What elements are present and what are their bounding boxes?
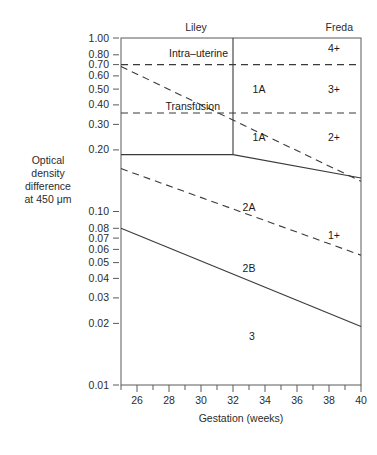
y-tick-label: 0.70 [89,58,110,70]
x-tick-label: 40 [355,394,367,406]
y-tick-label: 0.10 [89,205,110,217]
annotation-intra-uterine: Intra–uterine [169,47,228,59]
zone-label-liley-2a: 2A [243,201,256,213]
y-tick-label: 0.20 [89,143,110,155]
y-tick-label: 0.60 [89,69,110,81]
y-tick-label: 0.30 [89,118,110,130]
y-tick-label: 0.05 [89,256,110,268]
x-tick-labels: 26 28 30 32 34 36 38 40 [131,394,367,406]
y-axis-title-line: Optical [32,154,65,166]
y-axis-title: Optical density difference at 450 μm [25,154,72,205]
annotation-transfusion: Transfusion [166,100,221,112]
series-zone2B-3-boundary [121,228,361,326]
y-tick-label: 0.07 [89,232,110,244]
y-axis-title-line: difference [25,180,71,192]
liley-curve-chart: Liley Freda 1.00 0.80 0.70 0.60 0.50 0.4… [0,0,377,455]
y-tick-labels: 1.00 0.80 0.70 0.60 0.50 0.40 0.30 0.20 … [89,32,110,391]
column-header-freda: Freda [326,21,354,33]
y-axis-title-line: at 450 μm [25,193,72,205]
x-tick-label: 34 [259,394,271,406]
x-tick-label: 32 [227,394,239,406]
y-tick-label: 0.40 [89,98,110,110]
y-tick-label: 0.02 [89,317,110,329]
zone-label-freda-4plus: 4+ [328,42,340,54]
series-liley-zone1-lower-boundary [121,155,361,178]
x-tick-marks [121,385,361,392]
x-tick-label: 26 [131,394,143,406]
x-axis-title: Gestation (weeks) [199,412,284,424]
y-tick-label: 0.04 [89,272,110,284]
y-tick-label: 0.50 [89,83,110,95]
zone-label-liley-1a-lower: 1A [253,131,266,143]
x-tick-label: 38 [323,394,335,406]
y-tick-label: 0.06 [89,243,110,255]
y-tick-label: 1.00 [89,32,110,44]
chart-svg: Liley Freda 1.00 0.80 0.70 0.60 0.50 0.4… [0,0,377,455]
x-tick-label: 28 [163,394,175,406]
y-tick-label: 0.01 [89,379,110,391]
y-axis-title-line: density [31,167,65,179]
x-tick-label: 30 [195,394,207,406]
zone-label-freda-1plus: 1+ [328,229,340,241]
zone-label-liley-2b: 2B [243,262,256,274]
y-tick-label: 0.03 [89,291,110,303]
zone-label-freda-2plus: 2+ [328,131,340,143]
y-tick-marks [113,38,119,385]
zone-label-freda-3plus: 3+ [328,83,340,95]
series-zone2A-2B-boundary [121,169,361,256]
zone-label-liley-3: 3 [249,330,255,342]
zone-label-liley-1a-upper: 1A [253,83,266,95]
plot-frame [121,38,361,385]
series-intra-uterine-transfusion-boundary [121,67,361,182]
x-tick-label: 36 [291,394,303,406]
column-header-liley: Liley [185,21,207,33]
